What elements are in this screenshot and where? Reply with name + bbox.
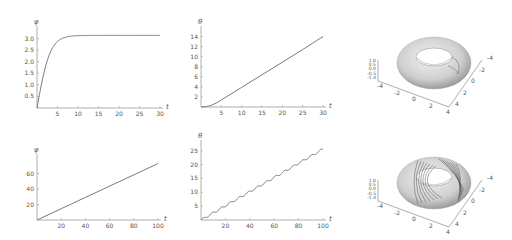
x-tick-label: 30	[319, 109, 327, 116]
x-tick-label: 40	[82, 222, 90, 229]
y-tick-label: 0	[471, 77, 475, 84]
x-axis-label: t	[329, 215, 332, 223]
y-tick-label: 20	[190, 161, 198, 168]
y-tick-label: 12	[190, 43, 198, 50]
y-tick-label: 1.0	[24, 81, 34, 88]
x-tick-label: 20	[57, 222, 65, 229]
y-tick-label: 5	[194, 202, 198, 209]
y-tick-label: -4	[487, 54, 493, 61]
x-tick-label: 80	[295, 222, 303, 229]
data-curve	[201, 37, 323, 107]
x-tick-label: -2	[394, 89, 400, 96]
y-tick-label: -2	[479, 186, 485, 193]
x-tick-label: 2	[429, 102, 433, 109]
x-tick-label: 80	[130, 222, 138, 229]
x-tick-label: -2	[394, 209, 400, 216]
y-axis-label: θ	[198, 132, 203, 140]
x-axis-label: t	[329, 102, 332, 110]
y-tick-label: 0	[471, 197, 475, 204]
y-tick-label: 0.5	[24, 92, 34, 99]
x-tick-label: 4	[446, 108, 450, 115]
x-tick-label: 20	[279, 109, 287, 116]
data-curve	[201, 149, 323, 220]
y-tick-label: -2	[479, 66, 485, 73]
y-tick-label: 2.0	[24, 58, 34, 65]
x-tick-label: 20	[222, 222, 230, 229]
z-tick-label: -1.0	[367, 75, 376, 80]
x-tick-label: 40	[246, 222, 254, 229]
x-tick-label: 100	[317, 222, 329, 229]
x-tick-label: 25	[136, 110, 144, 117]
y-tick-label: 2	[194, 93, 198, 100]
line-chart-4: 20406080100510152025tθ	[164, 120, 334, 240]
y-tick-label: 3.0	[24, 35, 34, 42]
y-tick-label: 14	[190, 33, 198, 40]
y-tick-label: 1.5	[24, 69, 34, 76]
y-axis-label: θ	[198, 18, 203, 26]
y-tick-label: 2.5	[24, 46, 34, 53]
y-tick-label: 8	[194, 63, 198, 70]
x-tick-label: 2	[429, 222, 433, 229]
torus-plot-1: -4-2024420-2-41.00.50.0-0.5-1.0	[358, 0, 512, 124]
y-tick-label: 60	[26, 170, 34, 177]
y-tick-label: 2	[463, 89, 467, 96]
x-tick-label: 5	[56, 110, 60, 117]
x-tick-label: 10	[74, 110, 82, 117]
y-tick-label: -4	[487, 174, 493, 181]
line-chart-2: 510152025302468101214tθ	[164, 0, 334, 124]
data-curve	[37, 164, 158, 220]
x-tick-label: 60	[270, 222, 278, 229]
y-tick-label: 20	[26, 201, 34, 208]
y-tick-label: 6	[194, 73, 198, 80]
x-tick-label: 0	[412, 95, 416, 102]
y-axis-label: φ	[34, 18, 39, 26]
z-tick-label: -1.0	[367, 195, 376, 200]
y-tick-label: 40	[26, 185, 34, 192]
x-tick-label: 60	[106, 222, 114, 229]
x-tick-label: 15	[95, 110, 103, 117]
x-tick-label: 20	[115, 110, 123, 117]
y-tick-label: 4	[455, 220, 459, 227]
y-tick-label: 2	[463, 209, 467, 216]
y-axis-label: φ	[34, 146, 39, 154]
y-tick-label: 4	[455, 100, 459, 107]
x-tick-label: -4	[377, 82, 383, 89]
x-tick-label: 15	[258, 109, 266, 116]
x-tick-label: 0	[412, 215, 416, 222]
x-tick-label: 100	[152, 222, 164, 229]
y-tick-label: 25	[190, 147, 198, 154]
x-tick-label: 4	[446, 228, 450, 235]
x-tick-label: 5	[219, 109, 223, 116]
y-tick-label: 15	[190, 174, 198, 181]
x-tick-label: 10	[238, 109, 246, 116]
data-curve	[37, 35, 160, 108]
y-tick-label: 10	[190, 188, 198, 195]
x-tick-label: -4	[377, 202, 383, 209]
line-chart-3: 20406080100204060tφ	[0, 120, 170, 240]
x-tick-label: 30	[156, 110, 164, 117]
x-tick-label: 25	[299, 109, 307, 116]
y-tick-label: 10	[190, 53, 198, 60]
line-chart-1: 510152025300.51.01.52.02.53.0tφ	[0, 0, 170, 124]
y-tick-label: 4	[194, 83, 198, 90]
torus-plot-2: -4-2024420-2-41.00.50.0-0.5-1.0	[358, 120, 512, 240]
